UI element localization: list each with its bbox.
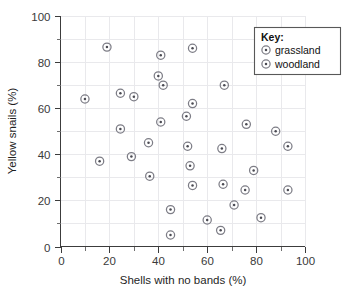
chart-canvas: 020406080100 020406080100 Shells with no…	[0, 0, 348, 294]
data-point	[257, 214, 265, 222]
legend[interactable]: Key: grasslandwoodland	[255, 28, 341, 75]
data-point	[188, 181, 196, 189]
x-axis-ticks: 020406080100	[58, 247, 315, 267]
data-point	[284, 142, 292, 150]
data-point	[116, 89, 124, 97]
data-point	[96, 157, 104, 165]
x-tick-label: 80	[250, 255, 263, 267]
scatter-chart: 020406080100 020406080100 Shells with no…	[0, 0, 348, 294]
x-tick-label: 0	[58, 255, 64, 267]
legend-title: Key:	[261, 31, 284, 43]
data-point	[284, 186, 292, 194]
data-point	[166, 206, 174, 214]
y-axis-ticks: 020406080100	[31, 11, 60, 254]
data-point	[217, 226, 225, 234]
data-point	[230, 201, 238, 209]
data-point	[219, 180, 227, 188]
y-tick-label: 80	[38, 57, 51, 69]
x-tick-label: 100	[296, 255, 315, 267]
y-tick-label: 20	[38, 195, 51, 207]
data-point	[218, 144, 226, 152]
data-point	[146, 172, 154, 180]
x-tick-label: 60	[201, 255, 214, 267]
data-point	[81, 95, 89, 103]
y-tick-label: 40	[38, 149, 51, 161]
y-tick-label: 60	[38, 103, 51, 115]
x-tick-label: 40	[152, 255, 165, 267]
data-point	[241, 186, 249, 194]
data-point	[157, 118, 165, 126]
data-point	[166, 231, 174, 239]
data-point	[130, 93, 138, 101]
series-grassland	[81, 43, 229, 126]
x-axis-title: Shells with no bands (%)	[120, 274, 247, 286]
y-axis-title: Yellow snails (%)	[6, 88, 18, 175]
data-point	[157, 51, 165, 59]
legend-item-label: woodland	[274, 58, 320, 70]
legend-item-label: grassland	[275, 44, 321, 56]
data-point	[188, 44, 196, 52]
data-point	[242, 120, 250, 128]
data-point	[144, 139, 152, 147]
data-point	[184, 142, 192, 150]
data-point	[188, 99, 196, 107]
y-tick-label: 0	[44, 242, 50, 254]
data-point	[186, 162, 194, 170]
series-woodland	[96, 120, 292, 239]
y-tick-label: 100	[31, 11, 50, 23]
x-tick-label: 20	[103, 255, 116, 267]
